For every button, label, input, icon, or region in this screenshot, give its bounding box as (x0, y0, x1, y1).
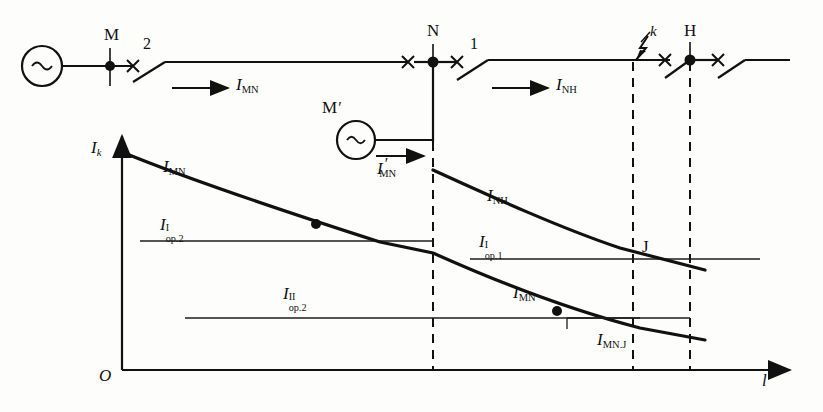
prime-mark: ′ (384, 155, 388, 172)
label-node-N: N (427, 22, 439, 39)
node-H (685, 42, 696, 66)
setting-subscript: op.1 (485, 251, 503, 261)
label-curve-I-MN-lower: IMN (513, 284, 536, 303)
breaker-H-right (712, 54, 790, 78)
annotation-subscript: MN.J (603, 339, 627, 350)
label-setting-op1-I: IIop.1 (479, 233, 485, 250)
label-fault-k: k (650, 24, 657, 39)
label-node-M: M (104, 26, 119, 43)
curve-I-NH (433, 170, 705, 270)
figure-root: M N H 2 1 k M′ IMN INH I′MN Ik O l IMN I… (0, 0, 823, 412)
ac-source-left (22, 46, 62, 86)
setting-subscript: op.2 (289, 303, 307, 313)
intersection-dot-op2-II (552, 306, 562, 316)
curve-subscript: MN (519, 292, 536, 303)
label-x-axis-l: l (762, 372, 767, 389)
label-breaker-1: 1 (470, 36, 478, 52)
setting-subscript: op.2 (166, 234, 184, 244)
setting-superscript: I (166, 223, 169, 233)
label-curve-I-NH: INH (487, 187, 508, 206)
node-M (105, 48, 115, 86)
circuit-top (22, 32, 790, 159)
node-N (428, 44, 439, 142)
current-subscript: MN (379, 168, 396, 179)
label-I-MN-J: IMN.J (597, 331, 626, 350)
label-source-M-prime: M′ (322, 99, 341, 116)
breaker-1 (433, 56, 633, 80)
setting-superscript: I (485, 240, 488, 250)
label-current-I-MN-prime: I′MN (377, 160, 396, 179)
current-subscript: MN (242, 84, 259, 95)
label-current-I-MN-top: IMN (236, 76, 259, 95)
label-point-J: J (642, 238, 649, 255)
label-setting-op2-I: IIop.2 (160, 216, 166, 233)
curve-subscript: NH (493, 195, 508, 206)
breaker-2 (127, 60, 408, 82)
label-origin-O: O (99, 367, 111, 384)
label-M-prime-letter: M (322, 98, 337, 117)
y-axis-subscript: k (97, 147, 102, 158)
label-current-I-NH-top: INH (556, 76, 577, 95)
label-breaker-2: 2 (143, 36, 151, 52)
schematic-svg (0, 0, 823, 412)
plot-area (122, 62, 790, 370)
intersection-dot-op2-I (311, 219, 321, 229)
label-node-H: H (684, 22, 696, 39)
ac-source-branch (337, 121, 433, 159)
prime-mark: ′ (337, 99, 341, 116)
label-setting-op2-II: IIIop.2 (283, 285, 289, 302)
label-y-axis-Ik: Ik (91, 139, 101, 158)
setting-superscript: II (289, 292, 296, 302)
curve-subscript: MN (169, 166, 186, 177)
current-subscript: NH (562, 84, 577, 95)
label-curve-I-MN-upper: IMN (163, 158, 186, 177)
